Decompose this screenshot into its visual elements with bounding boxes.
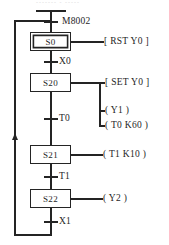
action-s20-timer-t0[interactable]: ( T0 K60 )	[105, 120, 148, 131]
action-s0-rst-y0[interactable]: [ RST Y0 ]	[104, 36, 149, 47]
step-label-s22: S22	[43, 194, 58, 204]
step-box-s21[interactable]: S21	[30, 145, 71, 164]
step-box-s0[interactable]: S0	[30, 32, 71, 51]
transition-tick-x0	[44, 61, 58, 63]
return-rail-top	[14, 20, 51, 22]
transition-label-t0: T0	[59, 113, 70, 123]
action-link-s21	[71, 154, 103, 156]
action-bus-s20	[99, 82, 101, 126]
step-label-s20: S20	[43, 78, 58, 88]
action-link-s20	[71, 82, 100, 84]
transition-label-x1: X1	[59, 216, 71, 226]
action-s22-coil-y2[interactable]: ( Y2 )	[103, 193, 127, 204]
transition-label-x0: X0	[59, 56, 71, 66]
scan-artifact-top-text: ------- - -----	[36, 0, 80, 5]
return-rail-vertical	[14, 20, 16, 236]
action-s20-set-y0[interactable]: [ SET Y0 ]	[105, 77, 149, 88]
step-box-s20[interactable]: S20	[30, 73, 71, 92]
action-s20-coil-y1[interactable]: ( Y1 )	[105, 105, 129, 116]
action-link-s22	[71, 198, 103, 200]
transition-label-t1: T1	[59, 171, 70, 181]
step-box-s22[interactable]: S22	[30, 189, 71, 208]
return-rail-bottom	[14, 234, 51, 236]
transition-label-m8002: M8002	[62, 16, 90, 26]
transition-tick-t0	[44, 118, 58, 120]
action-s21-timer-t1[interactable]: ( T1 K10 )	[103, 149, 146, 160]
return-arrow-up-icon	[12, 133, 18, 140]
transition-tick-x1	[44, 221, 58, 223]
step-label-s21: S21	[43, 150, 58, 160]
sfc-diagram-canvas: ------- - ----- M8002 S0 [ RST Y0 ] X0 S…	[0, 0, 169, 245]
action-link-s0	[71, 41, 104, 43]
transition-tick-t1	[44, 176, 58, 178]
step-label-s0: S0	[45, 37, 55, 47]
